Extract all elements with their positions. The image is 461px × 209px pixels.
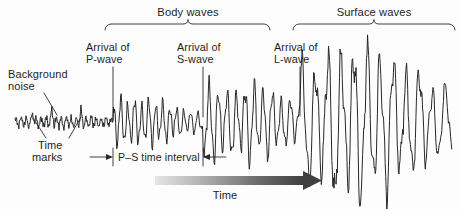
ps-time-interval-label: P–S time interval	[118, 151, 198, 164]
time-arrow-shaft	[155, 176, 303, 185]
bracket-body-waves	[105, 20, 270, 31]
arrival-label-l-wave-line1: Arrival of	[274, 41, 318, 54]
arrival-label-s-wave-line1: Arrival of	[177, 41, 221, 54]
time-marks-label-line1: Time	[38, 139, 62, 152]
time-axis-label: Time	[205, 189, 245, 202]
leader-background-noise	[44, 93, 57, 115]
time-marks-label-line2: marks	[32, 151, 62, 164]
arrival-label-p-wave-line1: Arrival of	[86, 41, 130, 54]
bracket-surface-waves	[293, 20, 455, 31]
arrival-label-l-wave-line2: L-wave	[274, 53, 309, 66]
group-label-body-waves: Body waves	[150, 6, 226, 19]
time-axis-arrow	[155, 171, 322, 190]
seismogram-figure: Body waves Surface waves Arrival of P-wa…	[0, 0, 461, 209]
background-noise-label-line1: Background	[8, 68, 68, 81]
arrival-label-p-wave-line2: P-wave	[86, 53, 123, 66]
seismogram-canvas	[0, 0, 461, 209]
background-noise-label-line2: noise	[8, 80, 35, 93]
time-arrow-head	[303, 171, 322, 190]
group-label-surface-waves: Surface waves	[331, 6, 417, 19]
ps-arrow-left-head	[106, 154, 113, 160]
arrival-label-s-wave-line2: S-wave	[177, 53, 214, 66]
